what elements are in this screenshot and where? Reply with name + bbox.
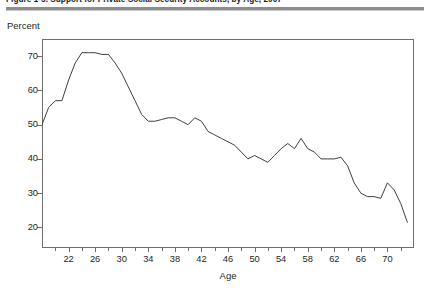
- x-tick-mark: [95, 248, 96, 252]
- y-axis-unit-label: Percent: [7, 20, 40, 31]
- y-tick-label: 20: [12, 223, 38, 232]
- x-tick-mark: [281, 248, 282, 252]
- x-tick-label: 38: [160, 254, 190, 265]
- x-tick-label: 22: [54, 254, 84, 265]
- x-tick-mark: [361, 248, 362, 252]
- x-minor-tick-mark: [55, 248, 56, 251]
- x-tick-label: 30: [107, 254, 137, 265]
- x-tick-label: 34: [133, 254, 163, 265]
- x-minor-tick-mark: [401, 248, 402, 251]
- x-tick-label: 50: [240, 254, 270, 265]
- x-minor-tick-mark: [241, 248, 242, 251]
- x-minor-tick-mark: [82, 248, 83, 251]
- y-tick-label: 50: [12, 120, 38, 129]
- x-tick-label: 54: [266, 254, 296, 265]
- x-tick-mark: [175, 248, 176, 252]
- x-axis-tick-labels: 22263034384246505458626670: [42, 254, 414, 266]
- x-tick-label: 70: [372, 254, 402, 265]
- x-tick-label: 42: [186, 254, 216, 265]
- x-minor-tick-mark: [348, 248, 349, 251]
- x-minor-tick-mark: [108, 248, 109, 251]
- x-tick-label: 66: [346, 254, 376, 265]
- x-tick-label: 26: [80, 254, 110, 265]
- x-tick-mark: [334, 248, 335, 252]
- x-tick-mark: [228, 248, 229, 252]
- x-tick-label: 46: [213, 254, 243, 265]
- title-divider-rule-secondary: [6, 10, 424, 11]
- x-tick-mark: [148, 248, 149, 252]
- x-tick-mark: [308, 248, 309, 252]
- figure-title: Figure 1-5. Support for Private Social S…: [6, 0, 426, 4]
- x-minor-tick-mark: [135, 248, 136, 251]
- x-minor-tick-mark: [321, 248, 322, 251]
- line-chart-canvas: [42, 39, 414, 248]
- x-minor-tick-mark: [294, 248, 295, 251]
- x-tick-label: 58: [293, 254, 323, 265]
- x-minor-tick-mark: [162, 248, 163, 251]
- x-minor-tick-mark: [268, 248, 269, 251]
- x-tick-mark: [201, 248, 202, 252]
- x-tick-mark: [122, 248, 123, 252]
- x-tick-mark: [255, 248, 256, 252]
- x-tick-mark: [387, 248, 388, 252]
- x-axis-title: Age: [42, 270, 414, 281]
- x-tick-mark: [69, 248, 70, 252]
- y-axis-tick-labels: 203040506070: [6, 39, 38, 248]
- y-tick-label: 40: [12, 154, 38, 163]
- y-tick-label: 70: [12, 52, 38, 61]
- data-series-line: [42, 53, 407, 223]
- x-minor-tick-mark: [188, 248, 189, 251]
- x-minor-tick-mark: [215, 248, 216, 251]
- y-tick-label: 30: [12, 189, 38, 198]
- y-tick-label: 60: [12, 86, 38, 95]
- x-tick-label: 62: [319, 254, 349, 265]
- x-minor-tick-mark: [374, 248, 375, 251]
